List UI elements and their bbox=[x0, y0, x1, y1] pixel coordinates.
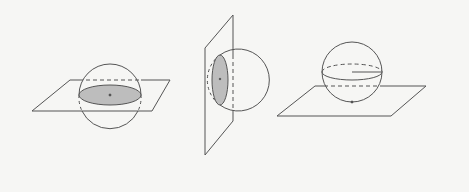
equator-hidden bbox=[322, 64, 382, 72]
panel-vertical-section bbox=[205, 15, 269, 155]
equator-visible bbox=[322, 72, 382, 80]
center-point bbox=[109, 94, 111, 96]
plane-edge bbox=[391, 86, 426, 116]
sphere-lower bbox=[82, 111, 138, 129]
plane-edge bbox=[277, 86, 315, 116]
panel-tangent-plane bbox=[277, 42, 426, 116]
plane-edge bbox=[152, 80, 170, 111]
center-point bbox=[219, 78, 221, 80]
plane-edge bbox=[32, 80, 70, 111]
tangent-point bbox=[351, 101, 353, 103]
sphere-plane-diagram bbox=[0, 0, 469, 192]
panel-horizontal-section bbox=[32, 64, 170, 129]
